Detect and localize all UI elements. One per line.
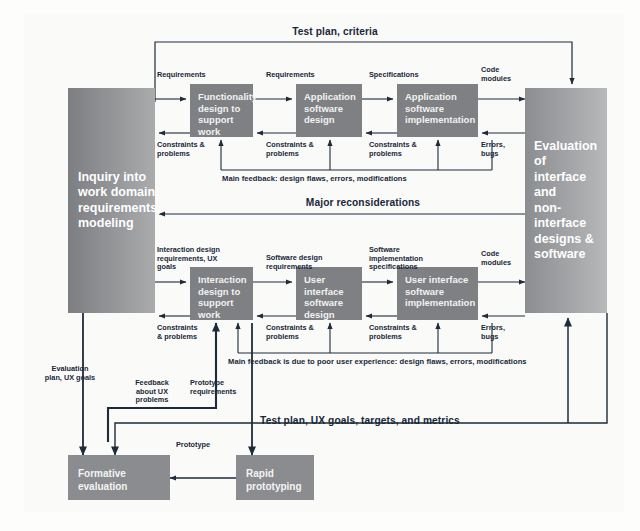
label-prototype-requirements: Prototype requirements [190, 379, 236, 396]
stage-interaction-design[interactable]: Interaction design to support work [190, 267, 253, 320]
label-ux-software-impl-spec: Software implementation specifications [369, 246, 423, 272]
label-ux-errors-bugs: Errors, bugs [481, 324, 505, 341]
stage-application-software-implementation-label: Application software implementation [405, 91, 475, 125]
label-ux-software-design-req: Software design requirements [266, 254, 322, 271]
stage-evaluation-label: Evaluation of interface and non-interfac… [534, 139, 607, 263]
label-sw-requirements-2: Requirements [266, 71, 315, 80]
label-sw-requirements-1: Requirements [157, 71, 206, 80]
label-sw-constraints-2: Constraints & problems [266, 141, 314, 158]
label-sw-specifications: Specifications [369, 71, 418, 80]
stage-application-software-design[interactable]: Application software design [296, 84, 362, 137]
stage-functionality-design-label: Functionality design to support work [198, 91, 257, 137]
label-sw-errors-bugs: Errors, bugs [481, 141, 505, 158]
stage-inquiry-label: Inquiry into work domain, requirements, … [78, 170, 161, 232]
label-major-reconsiderations: Major reconsiderations [213, 199, 513, 208]
stage-formative-evaluation-label: Formative evaluation [78, 468, 127, 492]
label-ux-main-feedback: Main feedback is due to poor user experi… [228, 358, 527, 367]
label-sw-code-modules: Code modules [481, 66, 511, 83]
stage-ui-software-implementation[interactable]: User interface software implementation [397, 267, 478, 320]
stage-formative-evaluation[interactable]: Formative evaluation [68, 455, 170, 500]
stage-functionality-design[interactable]: Functionality design to support work [190, 84, 253, 137]
label-sw-constraints-3: Constraints & problems [369, 141, 417, 158]
label-sw-constraints-1: Constraints & problems [157, 141, 205, 158]
label-ux-constraints-1: Constraints & problems [157, 324, 198, 341]
stage-inquiry-into-work-domain[interactable]: Inquiry into work domain, requirements, … [68, 88, 155, 313]
stage-evaluation-of-interface[interactable]: Evaluation of interface and non-interfac… [525, 88, 607, 313]
label-ux-constraints-3: Constraints & problems [369, 324, 417, 341]
label-top-test-plan: Test plan, criteria [215, 28, 455, 37]
label-ux-constraints-2: Constraints & problems [266, 324, 314, 341]
stage-ui-software-design-label: User interface software design [304, 274, 344, 320]
label-evaluation-plan: Evaluation plan, UX goals [29, 365, 111, 382]
stage-ui-software-implementation-label: User interface software implementation [405, 274, 475, 308]
label-ux-requirements: Interaction design requirements, UX goal… [157, 246, 220, 272]
stage-ui-software-design[interactable]: User interface software design [296, 267, 362, 320]
label-sw-main-feedback: Main feedback: design flaws, errors, mod… [222, 175, 407, 184]
stage-application-software-implementation[interactable]: Application software implementation [397, 84, 478, 137]
stage-interaction-design-label: Interaction design to support work [198, 274, 247, 320]
label-prototype: Prototype [176, 441, 210, 450]
stage-rapid-prototyping[interactable]: Rapid prototyping [236, 455, 314, 500]
stage-rapid-prototyping-label: Rapid prototyping [246, 468, 302, 492]
stage-application-software-design-label: Application software design [304, 91, 356, 125]
label-ux-code-modules: Code modules [481, 250, 511, 267]
diagram-canvas: Inquiry into work domain, requirements, … [0, 0, 640, 531]
label-feedback-about-ux: Feedback about UX problems [124, 379, 180, 405]
label-bottom-test-plan: Test plan, UX goals, targets, and metric… [215, 417, 505, 426]
